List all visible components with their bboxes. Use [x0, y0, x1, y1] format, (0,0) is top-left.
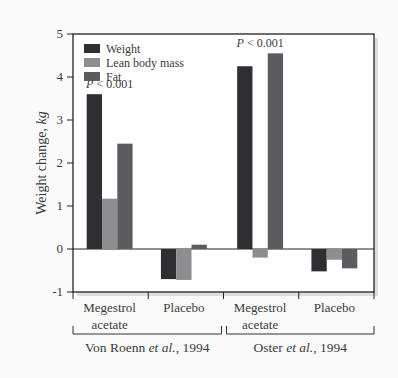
category-label: Megestrol [83, 300, 136, 315]
y-tick-label: 5 [57, 26, 64, 41]
legend-swatch-lean-body-mass [84, 58, 100, 67]
category-label: acetate [242, 317, 278, 332]
study-group-label: Von Roenn et al., 1994 [85, 340, 210, 355]
y-tick-label: 3 [57, 112, 64, 127]
category-label: Placebo [163, 300, 204, 315]
y-axis-label: Weight change, kg [34, 111, 49, 214]
bar-fat [268, 53, 283, 249]
category-label: Megestrol [234, 300, 287, 315]
bar-lean-body-mass [252, 249, 267, 258]
y-tick-label: -1 [52, 284, 63, 299]
bar-fat [342, 249, 357, 268]
bar-fat [192, 245, 207, 249]
legend-swatch-fat [84, 72, 100, 81]
y-tick-label: 4 [57, 69, 64, 84]
legend-label: Weight [106, 42, 141, 56]
bar-weight [311, 249, 326, 271]
y-tick-label: 1 [57, 198, 64, 213]
category-label: Placebo [314, 300, 355, 315]
bar-lean-body-mass [102, 199, 117, 249]
category-label: acetate [92, 317, 128, 332]
legend-label: Lean body mass [106, 56, 184, 70]
bar-weight [237, 66, 252, 249]
y-tick-label: 0 [57, 241, 64, 256]
bar-weight [161, 249, 176, 279]
study-group-label: Oster et al., 1994 [254, 340, 348, 355]
y-tick-label: 2 [57, 155, 64, 170]
legend-label: Fat [106, 70, 122, 84]
weight-change-bar-chart: -1012345Weight change, kgMegestrolacetat… [0, 0, 398, 378]
bar-lean-body-mass [327, 249, 342, 260]
bar-weight [87, 94, 102, 249]
legend-swatch-weight [84, 44, 100, 53]
bar-fat [117, 144, 132, 249]
bar-lean-body-mass [176, 249, 191, 280]
p-value-annotation: P < 0.001 [236, 36, 284, 50]
